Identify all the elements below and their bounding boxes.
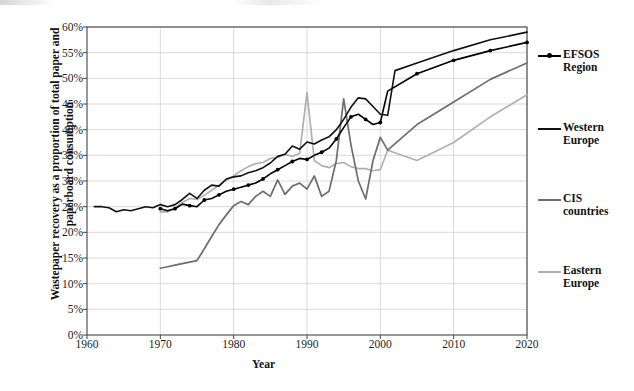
legend-swatch-icon	[537, 122, 562, 136]
series-marker	[305, 158, 309, 162]
series-marker	[261, 177, 265, 181]
legend-label-line1: Western	[563, 121, 604, 133]
chart-container: Wastepaper recovery as a proportion of t…	[0, 0, 634, 391]
legend-marker-icon	[547, 53, 552, 58]
legend-entry[interactable]: EasternEurope	[537, 264, 634, 290]
legend-entry[interactable]: WesternEurope	[537, 121, 634, 147]
legend-label-line2: Europe	[563, 134, 599, 146]
legend-label: CIScountries	[562, 192, 608, 218]
legend-label: EasternEurope	[562, 264, 601, 290]
legend-label-line1: CIS	[563, 192, 582, 204]
series-marker	[525, 41, 529, 45]
series-marker	[364, 118, 368, 122]
series-marker	[217, 193, 221, 197]
series-marker	[320, 150, 324, 154]
series-marker	[452, 58, 456, 62]
legend-entry[interactable]: EFSOSRegion	[537, 48, 634, 74]
legend-label: WesternEurope	[562, 121, 604, 147]
legend-label: EFSOSRegion	[562, 48, 599, 74]
chart-legend: EFSOSRegionWesternEuropeCIScountriesEast…	[537, 28, 634, 318]
legend-entry[interactable]: CIScountries	[537, 192, 634, 218]
legend-swatch-icon	[537, 265, 562, 279]
series-marker	[246, 183, 250, 187]
series-marker	[488, 49, 492, 53]
series-marker	[349, 115, 353, 119]
series-marker	[378, 121, 382, 125]
legend-swatch-icon	[537, 193, 562, 207]
series-marker	[290, 160, 294, 164]
series-marker	[202, 198, 206, 202]
legend-label-line2: countries	[563, 205, 608, 217]
legend-label-line2: Europe	[563, 277, 599, 289]
series-marker	[276, 168, 280, 172]
series-marker	[173, 207, 177, 211]
series-marker	[232, 187, 236, 191]
series-marker	[158, 207, 162, 211]
legend-swatch-icon	[537, 49, 562, 63]
series-marker	[415, 72, 419, 76]
series-marker	[334, 137, 338, 141]
legend-label-line1: EFSOS	[563, 48, 599, 60]
legend-label-line2: Region	[563, 61, 598, 73]
series-marker	[188, 204, 192, 208]
legend-label-line1: Eastern	[563, 264, 601, 276]
